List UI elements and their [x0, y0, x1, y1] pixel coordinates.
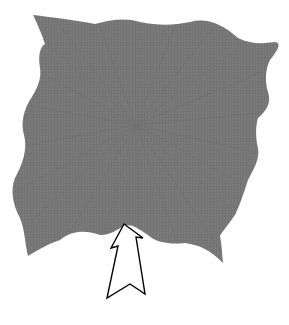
up-arrow-icon	[107, 224, 145, 298]
sheet-shape	[0, 0, 289, 280]
diagram-svg	[0, 0, 289, 325]
diagram-canvas	[0, 0, 289, 325]
